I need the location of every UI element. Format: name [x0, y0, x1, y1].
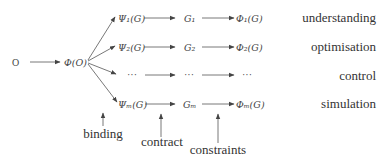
- row-simulation: Ψₘ(G) Gₘ Φₘ(G) simulation: [118, 96, 376, 111]
- arrow-fan-row3: [88, 63, 116, 74]
- diagram-canvas: O Φ(O) Ψ₁(G) G₁ Φ₁(G) understanding Ψ₂(G…: [0, 0, 389, 163]
- purpose-label: simulation: [321, 96, 376, 111]
- annotation-constraints: constraints: [190, 142, 246, 157]
- phi-node: Φ₁(G): [236, 13, 263, 24]
- purpose-label: control: [339, 68, 376, 83]
- psi-ellipsis: ···: [127, 69, 137, 80]
- annotation-binding: binding: [83, 126, 123, 141]
- row-optimisation: Ψ₂(G) G₂ Φ₂(G) optimisation: [118, 39, 377, 54]
- psi-node: Ψₘ(G): [118, 99, 147, 110]
- purpose-label: understanding: [302, 10, 376, 25]
- row-control: ··· ··· ··· control: [127, 68, 376, 83]
- phi-o-node: Φ(O): [64, 57, 87, 68]
- annotation-contract: contract: [141, 134, 183, 149]
- psi-node: Ψ₁(G): [118, 13, 145, 24]
- psi-node: Ψ₂(G): [118, 42, 145, 53]
- purpose-label: optimisation: [311, 39, 377, 54]
- source-node-o: O: [12, 57, 19, 68]
- row-understanding: Ψ₁(G) G₁ Φ₁(G) understanding: [118, 10, 376, 25]
- arrow-fan-row4: [88, 64, 117, 102]
- g-node: Gₘ: [183, 99, 197, 110]
- g-ellipsis: ···: [184, 69, 194, 80]
- phi-node: Φₘ(G): [236, 99, 265, 110]
- phi-node: Φ₂(G): [236, 42, 263, 53]
- g-node: G₁: [184, 13, 195, 24]
- g-node: G₂: [184, 42, 196, 53]
- phi-ellipsis: ···: [242, 69, 252, 80]
